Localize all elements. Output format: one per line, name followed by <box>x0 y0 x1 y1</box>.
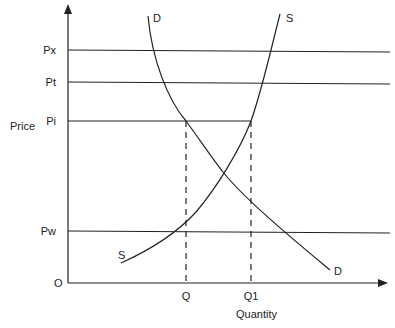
label-q1: Q1 <box>244 290 259 302</box>
origin-label: O <box>54 277 63 289</box>
y-axis-label: Price <box>10 120 35 132</box>
demand-label-bottom: D <box>334 265 342 277</box>
price-line-pw <box>68 231 390 233</box>
supply-label-top: S <box>286 12 293 24</box>
x-axis-label: Quantity <box>236 308 277 320</box>
label-px: Px <box>43 44 56 56</box>
price-line-pt <box>68 82 390 84</box>
price-line-px <box>68 50 390 52</box>
label-pt: Pt <box>46 76 56 88</box>
supply-demand-diagram: Px Pt Pi Pw Price O Q Q1 Quantity D D S … <box>0 0 395 328</box>
x-axis-arrow-icon <box>378 279 388 287</box>
demand-label-top: D <box>153 12 161 24</box>
supply-label-bottom: S <box>118 249 125 261</box>
label-pi: Pi <box>46 115 56 127</box>
label-pw: Pw <box>41 225 56 237</box>
y-axis-arrow-icon <box>64 4 72 14</box>
label-q: Q <box>182 290 191 302</box>
